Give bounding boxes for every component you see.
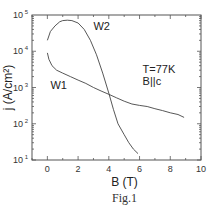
chart: 0246810101102103104105 W1W2T=77KB||c j (… xyxy=(0,0,217,207)
y-tick-exponent: 2 xyxy=(25,118,29,124)
y-tick-label: 10 xyxy=(13,10,23,20)
figure-caption: Fig.1 xyxy=(112,191,137,205)
series-label-w1: W1 xyxy=(50,79,67,91)
x-axis-title: B (T) xyxy=(111,175,138,189)
y-axis-title: j (A/cm²) xyxy=(1,65,15,111)
series-layer xyxy=(47,20,184,153)
labels-layer: W1W2T=77KB||c xyxy=(50,20,176,91)
y-tick-exponent: 1 xyxy=(25,154,29,160)
x-tick-label: 6 xyxy=(137,164,142,174)
x-tick-label: 10 xyxy=(196,164,206,174)
y-tick-exponent: 5 xyxy=(25,9,29,15)
y-tick-exponent: 4 xyxy=(25,45,29,51)
x-tick-label: 2 xyxy=(76,164,81,174)
x-tick-label: 8 xyxy=(168,164,173,174)
y-tick-label: 10 xyxy=(13,119,23,129)
y-tick-label: 10 xyxy=(13,46,23,56)
chart-annotation: B||c xyxy=(143,75,162,87)
y-tick-label: 10 xyxy=(13,155,23,165)
y-tick-exponent: 3 xyxy=(25,82,29,88)
x-tick-label: 4 xyxy=(106,164,111,174)
x-tick-label: 0 xyxy=(45,164,50,174)
series-label-w2: W2 xyxy=(93,20,110,32)
chart-annotation: T=77K xyxy=(143,63,176,75)
axis-tick-labels: 0246810101102103104105 xyxy=(13,9,206,174)
